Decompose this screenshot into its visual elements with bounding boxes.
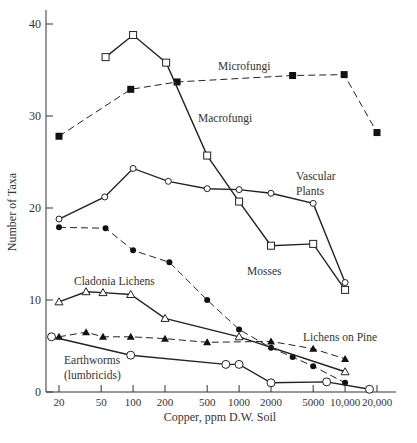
data-point-marker: [161, 314, 169, 321]
data-point-marker: [204, 297, 210, 303]
data-point-marker: [56, 224, 62, 230]
data-point-marker: [102, 54, 109, 61]
series-label-vascular-plants: Vascular: [296, 170, 336, 182]
data-point-marker: [204, 152, 211, 159]
data-point-marker: [342, 286, 349, 293]
series-label-earthworms-lumbricids: (lumbricids): [64, 369, 121, 382]
data-point-marker: [204, 186, 210, 192]
data-point-marker: [103, 225, 109, 231]
y-tick-label: 40: [29, 17, 41, 31]
data-point-marker: [222, 360, 230, 368]
x-tick-label: 100: [125, 396, 142, 408]
x-tick-label: 20: [54, 396, 66, 408]
x-tick-label: 500: [199, 396, 216, 408]
series-label-macrofungi: Macrofungi: [198, 112, 252, 125]
data-point-marker: [166, 259, 172, 265]
series-vascular-plants: [56, 165, 348, 285]
data-point-marker: [267, 379, 275, 387]
series-label-cladonia-lichens: Cladonia Lichens: [74, 275, 155, 287]
y-tick-label: 20: [29, 201, 41, 215]
chart-canvas: 010203040 205010020050010002000500010,00…: [0, 0, 417, 443]
series-label-earthworms-lumbricids: Earthworms: [64, 354, 121, 366]
data-point-marker: [374, 129, 381, 136]
x-tick-label: 1000: [228, 396, 251, 408]
y-tick-label: 0: [35, 385, 41, 399]
data-point-marker: [236, 326, 242, 332]
data-point-marker: [323, 378, 331, 386]
data-point-marker: [236, 198, 243, 205]
data-point-marker: [165, 178, 171, 184]
data-point-marker: [130, 247, 136, 253]
data-point-marker: [235, 360, 243, 368]
x-tick-label: 2000: [260, 396, 283, 408]
data-point-marker: [310, 363, 316, 369]
series-label-lichens-on-pine: Lichens on Pine: [303, 331, 377, 343]
x-ticks: 205010020050010002000500010,00020,000: [54, 385, 393, 408]
data-point-marker: [268, 190, 274, 196]
data-point-marker: [82, 328, 90, 335]
series-line: [106, 35, 346, 290]
data-point-marker: [130, 32, 137, 39]
x-tick-label: 5000: [302, 396, 325, 408]
series-label-microfungi: Microfungi: [218, 60, 270, 73]
data-point-marker: [56, 216, 62, 222]
y-tick-label: 30: [29, 109, 41, 123]
x-tick-label: 50: [96, 396, 108, 408]
data-point-marker: [130, 165, 136, 171]
y-ticks: 010203040: [29, 17, 53, 399]
x-tick-label: 10,000: [330, 396, 361, 408]
data-point-marker: [56, 133, 63, 140]
series-microfungi: [56, 71, 381, 140]
x-tick-label: 200: [157, 396, 174, 408]
line-chart: 010203040 205010020050010002000500010,00…: [0, 0, 417, 443]
y-tick-label: 10: [29, 293, 41, 307]
data-point-marker: [310, 200, 316, 206]
series-line: [59, 75, 377, 137]
data-point-marker: [48, 333, 56, 341]
data-point-marker: [310, 240, 317, 247]
data-point-marker: [127, 351, 135, 359]
data-point-marker: [267, 337, 275, 344]
y-axis-label: Number of Taxa: [5, 172, 19, 251]
x-tick-label: 20,000: [362, 396, 393, 408]
series-label-mosses: Mosses: [247, 265, 282, 277]
data-point-marker: [366, 385, 374, 393]
data-point-marker: [163, 59, 170, 66]
data-point-marker: [342, 280, 348, 286]
series-labels: MicrofungiMacrofungiVascularPlantsMosses…: [64, 60, 377, 382]
series-label-vascular-plants: Plants: [296, 185, 325, 197]
data-point-marker: [236, 187, 242, 193]
data-point-marker: [268, 242, 275, 249]
x-axis-label: Copper, ppm D.W. Soil: [164, 410, 277, 424]
data-point-marker: [127, 86, 134, 93]
data-point-marker: [341, 71, 348, 78]
data-point-marker: [289, 72, 296, 79]
data-point-marker: [102, 194, 108, 200]
